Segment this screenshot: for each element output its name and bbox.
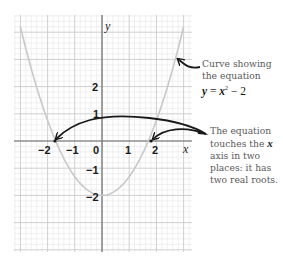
y-tick-p2: 2 (92, 81, 98, 93)
roots-annotation-line5: two real roots. (210, 174, 278, 186)
curve-equation: y = x2 − 2 (202, 82, 272, 97)
eq-equals: = (207, 85, 219, 97)
eq-rest: − 2 (228, 85, 246, 97)
y-axis-label: y (104, 19, 111, 33)
x-tick-p1: 1 (125, 144, 131, 156)
x-tick-m1: −1 (66, 144, 79, 156)
roots-annotation-line2: touches the x (210, 137, 278, 150)
x-tick-p2: 2 (152, 144, 158, 156)
roots-annotation-line4: places: it has (210, 162, 278, 174)
grid-minor (14, 15, 192, 252)
x-tick-0: 0 (93, 144, 99, 156)
x-axis-label: x (182, 142, 189, 156)
curve-annotation: Curve showing the equation y = x2 − 2 (202, 58, 272, 97)
roots-annotation: The equation touches the x axis in two p… (210, 125, 278, 186)
curve-annotation-line1: Curve showing (202, 58, 272, 70)
y-tick-m1: −1 (86, 164, 99, 176)
curve-annotation-line2: the equation (202, 70, 272, 82)
y-tick-m2: −2 (86, 191, 99, 203)
chart-figure: −2 −1 0 1 2 x 2 1 −1 −2 y Curve showing … (0, 0, 283, 257)
x-tick-m2: −2 (38, 144, 51, 156)
root-left-point (53, 139, 56, 142)
root-right-point (149, 139, 152, 142)
roots-x-var: x (267, 137, 273, 149)
grid-major (14, 15, 192, 252)
roots-annotation-line3: axis in two (210, 150, 278, 162)
roots-annotation-line1: The equation (210, 125, 278, 137)
roots-line2-text: touches the (210, 138, 267, 149)
